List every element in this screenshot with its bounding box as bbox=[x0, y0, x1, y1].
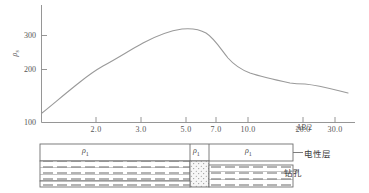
layer-label-rho1-mid: ρ1 bbox=[193, 146, 200, 157]
sounding-curve bbox=[42, 29, 348, 113]
resistivity-sounding-chart: 300 200 100 2.0 3.0 5.0 7.0 10.0 20.0 30… bbox=[0, 0, 369, 140]
geoelectric-cross-section: ρ1 ρ1 ρ1 电性层 钻孔 bbox=[0, 140, 369, 193]
x-tick-label-2: 2.0 bbox=[83, 125, 109, 134]
layer-label-rho1-left: ρ1 bbox=[82, 146, 89, 157]
y-tick-marks bbox=[42, 36, 48, 70]
rho-subscript: 1 bbox=[197, 151, 200, 157]
borehole-block bbox=[190, 161, 209, 187]
x-axis-title: AB/2 bbox=[296, 123, 312, 132]
bedded-layer-left-lower bbox=[40, 181, 190, 187]
bedded-layer-left bbox=[40, 161, 190, 181]
x-tick-label-3: 3.0 bbox=[128, 125, 154, 134]
x-axis-title-rest: /2 bbox=[306, 123, 312, 132]
rho-subscript: 1 bbox=[86, 151, 89, 157]
figure-root: 300 200 100 2.0 3.0 5.0 7.0 10.0 20.0 30… bbox=[0, 0, 369, 193]
electric-layer-band bbox=[40, 144, 293, 161]
y-tick-label-200: 200 bbox=[12, 65, 36, 74]
x-tick-label-5: 5.0 bbox=[173, 125, 199, 134]
x-tick-label-10: 10.0 bbox=[235, 125, 261, 134]
x-tick-label-7: 7.0 bbox=[203, 125, 229, 134]
x-axis-title-italic: AB bbox=[296, 123, 306, 132]
rho-subscript: 1 bbox=[249, 151, 252, 157]
layer-label-rho1-right: ρ1 bbox=[245, 146, 252, 157]
y-tick-label-300: 300 bbox=[12, 31, 36, 40]
electrical-layer-label: 电性层 bbox=[304, 147, 331, 159]
y-axis-title-subscript: s bbox=[14, 50, 20, 52]
bedded-layer-right bbox=[209, 165, 293, 187]
x-tick-label-30: 30.0 bbox=[322, 125, 348, 134]
y-axis-title-symbol: ρ bbox=[10, 53, 19, 57]
y-axis-title: ρs bbox=[10, 50, 21, 56]
borehole-label: 钻孔 bbox=[284, 166, 302, 178]
y-tick-label-100: 100 bbox=[12, 118, 36, 127]
chart-canvas bbox=[0, 0, 369, 140]
x-tick-marks bbox=[96, 117, 335, 123]
chart-axes bbox=[42, 5, 356, 123]
